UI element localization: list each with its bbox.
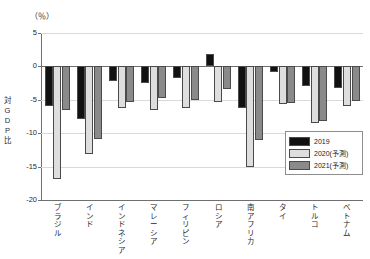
- bar: [319, 66, 327, 121]
- bar: [279, 66, 287, 103]
- y-tick-label: -20: [9, 195, 37, 204]
- x-tick-label: インド: [83, 204, 95, 230]
- x-tick-label-char: ア: [212, 221, 224, 230]
- y-axis-title-char: D: [2, 116, 13, 126]
- x-tick-label-char: ム: [341, 230, 353, 239]
- bar: [343, 66, 351, 106]
- x-tick-label-char: ア: [116, 247, 128, 256]
- x-tick-label: 南アフリカ: [244, 204, 256, 247]
- bar: [238, 66, 246, 108]
- y-tick-mark: [38, 167, 41, 168]
- bar: [206, 54, 214, 66]
- bar: [118, 66, 126, 108]
- legend-item[interactable]: 2019: [289, 135, 359, 147]
- x-tick-label: トルコ: [309, 204, 321, 230]
- legend-swatch: [289, 137, 310, 146]
- x-tick-label: フィリピン: [180, 204, 192, 247]
- x-tick-label: ロシア: [212, 204, 224, 230]
- bar: [182, 66, 190, 107]
- y-tick-label: -10: [9, 128, 37, 137]
- legend-item[interactable]: 2021(予測): [289, 159, 359, 171]
- y-tick-label: 5: [9, 28, 37, 37]
- legend-swatch: [289, 161, 310, 170]
- x-tick-label-char: ン: [180, 238, 192, 247]
- legend-label: 2020(予測): [314, 148, 348, 158]
- bar: [53, 66, 61, 178]
- bar: [77, 66, 85, 119]
- bar: [109, 66, 117, 81]
- bar: [352, 66, 360, 101]
- y-tick-mark: [38, 33, 41, 34]
- bar: [334, 66, 342, 88]
- x-tick-label-char: ド: [83, 221, 95, 230]
- y-tick-mark: [38, 200, 41, 201]
- bar: [173, 66, 181, 78]
- y-axis-unit-label: （％）: [30, 10, 54, 21]
- gridline: [41, 33, 363, 34]
- x-tick-label-char: イ: [277, 213, 289, 222]
- bar: [223, 66, 231, 89]
- chart-title: [0, 0, 370, 5]
- y-tick-label: 0: [9, 61, 37, 70]
- bar: [270, 66, 278, 71]
- bar: [302, 66, 310, 85]
- x-tick-label-char: カ: [244, 238, 256, 247]
- bar: [246, 66, 254, 166]
- y-tick-mark: [38, 66, 41, 67]
- x-tick-label-char: コ: [309, 221, 321, 230]
- legend-swatch: [289, 149, 310, 158]
- bar: [191, 66, 199, 99]
- x-tick-label: タイ: [277, 204, 289, 221]
- bar: [126, 66, 134, 101]
- bar: [158, 66, 166, 98]
- x-tick-label: ブラジル: [51, 204, 63, 238]
- bar: [85, 66, 93, 154]
- legend-item[interactable]: 2020(予測): [289, 147, 359, 159]
- bar: [62, 66, 70, 109]
- y-tick-mark: [38, 100, 41, 101]
- bar: [255, 66, 263, 139]
- bar: [311, 66, 319, 122]
- chart-container: （％） 対GDP比 50-5-10-15-20 ブラジルインドインドネシアマレー…: [0, 0, 370, 259]
- y-axis-title-char: 比: [2, 136, 13, 146]
- x-tick-label-char: ア: [148, 238, 160, 247]
- x-tick-label: マレーシア: [148, 204, 160, 247]
- y-tick-mark: [38, 133, 41, 134]
- y-tick-label: -15: [9, 162, 37, 171]
- legend: 20192020(予測)2021(予測): [285, 131, 363, 175]
- legend-label: 2019: [314, 138, 330, 145]
- x-tick-label: インドネシア: [116, 204, 128, 256]
- y-axis-title-char: G: [2, 106, 13, 116]
- x-tick-label: ベトナム: [341, 204, 353, 238]
- gridline: [41, 200, 363, 201]
- bar: [287, 66, 295, 103]
- bar: [94, 66, 102, 138]
- x-tick-label-char: ル: [51, 230, 63, 239]
- legend-label: 2021(予測): [314, 160, 348, 170]
- bar: [214, 66, 222, 102]
- bar: [45, 66, 53, 105]
- bar: [150, 66, 158, 109]
- bar: [141, 66, 149, 83]
- y-tick-label: -5: [9, 95, 37, 104]
